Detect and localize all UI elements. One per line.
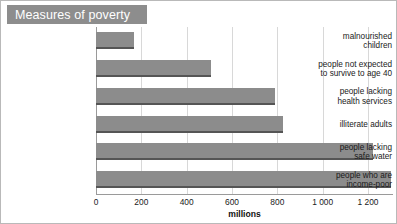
- bar[interactable]: [96, 116, 283, 133]
- bar[interactable]: [96, 60, 211, 77]
- category-label-line: people who are: [304, 171, 392, 180]
- x-axis-line: [96, 194, 393, 195]
- category-label-line: health services: [304, 97, 392, 106]
- x-axis-label: millions: [96, 209, 393, 219]
- category-label-line: income-poor: [304, 180, 392, 189]
- x-tick-label: 1 000: [312, 197, 333, 207]
- category-label: people not expectedto survive to age 40: [304, 60, 392, 78]
- bar[interactable]: [96, 88, 275, 105]
- category-label: people lackingsafe water: [304, 143, 392, 161]
- bar-fill: [96, 32, 134, 49]
- x-tick-label: 0: [94, 197, 99, 207]
- gridline: [368, 27, 369, 194]
- gridline: [187, 27, 188, 194]
- gridline: [323, 27, 324, 194]
- category-label-line: people lacking: [304, 87, 392, 96]
- category-label-line: people not expected: [304, 60, 392, 69]
- x-tick-label: 200: [134, 197, 148, 207]
- x-tick-label: 600: [225, 197, 239, 207]
- category-label: people who areincome-poor: [304, 171, 392, 189]
- gridline: [141, 27, 142, 194]
- x-tick-label: 800: [270, 197, 284, 207]
- x-tick-label: 400: [180, 197, 194, 207]
- chart-page: Measures of poverty malnourishedchildren…: [0, 0, 397, 224]
- category-label-line: to survive to age 40: [304, 69, 392, 78]
- bar-chart: malnourishedchildrenpeople not expectedt…: [1, 1, 397, 224]
- category-label-line: people lacking: [304, 143, 392, 152]
- bar[interactable]: [96, 32, 134, 49]
- category-label-line: safe water: [304, 152, 392, 161]
- bar-fill: [96, 88, 275, 105]
- category-label-line: children: [304, 41, 392, 50]
- category-label: illiterate adults: [304, 120, 392, 129]
- category-label-line: illiterate adults: [304, 120, 392, 129]
- category-label: malnourishedchildren: [304, 32, 392, 50]
- x-tick-label: 1 200: [358, 197, 379, 207]
- gridline: [277, 27, 278, 194]
- gridline: [232, 27, 233, 194]
- category-label: people lackinghealth services: [304, 87, 392, 105]
- bar-fill: [96, 116, 283, 133]
- category-label-line: malnourished: [304, 32, 392, 41]
- bar-fill: [96, 60, 211, 77]
